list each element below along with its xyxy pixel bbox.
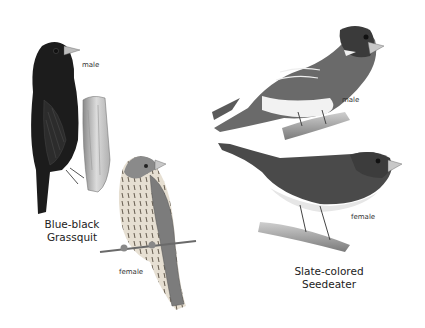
- blue-black-grassquit-female: [100, 156, 196, 310]
- grassquit-name-line2: Grassquit: [38, 231, 106, 244]
- grassquit-female-label: female: [119, 268, 143, 276]
- seedeater-male-label: male: [342, 96, 359, 104]
- seedeater-species-name: Slate-colored Seedeater: [290, 265, 368, 291]
- seedeater-female-label: female: [351, 213, 375, 221]
- slate-colored-seedeater-female: [218, 143, 402, 252]
- blue-black-grassquit-male: [31, 42, 84, 214]
- grassquit-male-label: male: [82, 61, 99, 69]
- grassquit-species-name: Blue-black Grassquit: [38, 218, 106, 244]
- grassquit-name-line1: Blue-black: [38, 218, 106, 231]
- field-guide-plate: male female male female Blue-black Grass…: [0, 0, 425, 328]
- seedeater-name-line2: Seedeater: [290, 278, 368, 291]
- seedeater-name-line1: Slate-colored: [290, 265, 368, 278]
- stump-perch: [83, 96, 110, 192]
- slate-colored-seedeater-male: [212, 26, 384, 140]
